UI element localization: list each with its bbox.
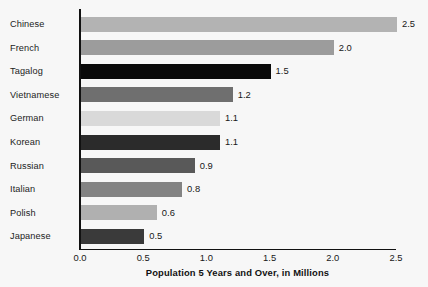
bar xyxy=(81,40,334,55)
bar xyxy=(81,17,397,32)
bar-row: Polish0.6 xyxy=(0,201,428,225)
x-axis-tick-labels: 0.00.51.01.52.02.5 xyxy=(0,252,428,266)
x-tick-label: 2.0 xyxy=(313,252,353,263)
bar-value-label: 1.1 xyxy=(225,106,238,130)
bar-container xyxy=(81,12,397,36)
bar-container xyxy=(81,83,233,107)
x-tick-label: 1.5 xyxy=(250,252,290,263)
bar-container xyxy=(81,36,334,60)
category-label: French xyxy=(0,36,72,60)
x-tick-label: 0.5 xyxy=(123,252,163,263)
bar xyxy=(81,205,157,220)
bar-value-label: 1.5 xyxy=(276,59,289,83)
bar-value-label: 0.6 xyxy=(162,201,175,225)
bar-value-label: 2.5 xyxy=(402,12,415,36)
category-label: Tagalog xyxy=(0,59,72,83)
category-label: Vietnamese xyxy=(0,83,72,107)
bar xyxy=(81,135,220,150)
bar-value-label: 0.9 xyxy=(200,154,213,178)
category-label: Italian xyxy=(0,177,72,201)
bar-value-label: 0.5 xyxy=(149,224,162,248)
x-axis-line xyxy=(79,249,396,250)
bar-container xyxy=(81,154,195,178)
bar-value-label: 1.1 xyxy=(225,130,238,154)
bar-row: German1.1 xyxy=(0,106,428,130)
category-label: Chinese xyxy=(0,12,72,36)
bar-container xyxy=(81,130,220,154)
bar-chart: Chinese2.5French2.0Tagalog1.5Vietnamese1… xyxy=(0,0,428,287)
category-label: Korean xyxy=(0,130,72,154)
bar-value-label: 2.0 xyxy=(339,36,352,60)
bar-value-label: 1.2 xyxy=(238,83,251,107)
category-label: Japanese xyxy=(0,224,72,248)
bar-row: Vietnamese1.2 xyxy=(0,83,428,107)
bar-row: Tagalog1.5 xyxy=(0,59,428,83)
x-tick-label: 1.0 xyxy=(186,252,226,263)
bar-container xyxy=(81,201,157,225)
bar xyxy=(81,64,271,79)
bar-container xyxy=(81,59,271,83)
category-label: Polish xyxy=(0,201,72,225)
x-tick-label: 2.5 xyxy=(376,252,416,263)
bar xyxy=(81,111,220,126)
bar-row: Italian0.8 xyxy=(0,177,428,201)
bar xyxy=(81,87,233,102)
bar-row: Russian0.9 xyxy=(0,154,428,178)
bar-row: French2.0 xyxy=(0,36,428,60)
bar-row: Japanese0.5 xyxy=(0,224,428,248)
bar-row: Korean1.1 xyxy=(0,130,428,154)
bar-container xyxy=(81,177,182,201)
bar-container xyxy=(81,224,144,248)
bar-row: Chinese2.5 xyxy=(0,12,428,36)
x-tick-label: 0.0 xyxy=(60,252,100,263)
bar xyxy=(81,182,182,197)
category-label: Russian xyxy=(0,154,72,178)
bar xyxy=(81,229,144,244)
bar xyxy=(81,158,195,173)
category-label: German xyxy=(0,106,72,130)
bar-rows: Chinese2.5French2.0Tagalog1.5Vietnamese1… xyxy=(0,9,428,249)
x-axis-title: Population 5 Years and Over, in Millions xyxy=(79,267,396,278)
bar-container xyxy=(81,106,220,130)
bar-value-label: 0.8 xyxy=(187,177,200,201)
